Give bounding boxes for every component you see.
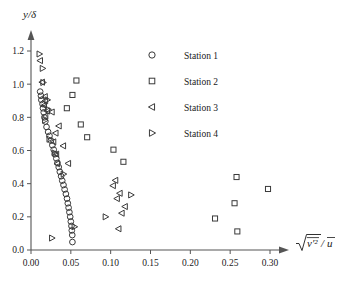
data-point bbox=[85, 135, 90, 140]
y-tick-label: 1.2 bbox=[12, 46, 24, 56]
x-tick-label: 0.00 bbox=[23, 258, 40, 268]
data-point bbox=[37, 51, 43, 57]
data-point bbox=[121, 159, 126, 164]
square-icon bbox=[149, 78, 155, 84]
x-axis-ticks: 0.000.050.100.150.200.250.30 bbox=[23, 250, 279, 268]
data-series-layer bbox=[37, 51, 271, 245]
data-point bbox=[64, 106, 69, 111]
data-point bbox=[72, 224, 78, 230]
data-point bbox=[111, 147, 116, 152]
legend-item-station-1[interactable]: Station 1 bbox=[149, 51, 218, 61]
data-point bbox=[50, 235, 56, 241]
y-tick-label: 1.0 bbox=[12, 80, 24, 90]
legend-item-station-3[interactable]: Station 3 bbox=[148, 103, 218, 113]
y-axis-label-text: y/δ bbox=[22, 8, 37, 20]
y-axis-arrow bbox=[28, 30, 35, 40]
data-point bbox=[65, 160, 71, 166]
y-tick-label: 0.2 bbox=[12, 212, 24, 222]
x-tick-label: 0.25 bbox=[222, 258, 239, 268]
circle-icon bbox=[149, 52, 155, 58]
chart-legend: Station 1Station 2Station 3Station 4 bbox=[148, 51, 218, 139]
legend-item-station-2[interactable]: Station 2 bbox=[149, 77, 218, 87]
data-point bbox=[115, 226, 121, 232]
data-point bbox=[56, 123, 62, 129]
legend-label: Station 3 bbox=[184, 103, 218, 113]
data-point bbox=[235, 229, 240, 234]
data-point bbox=[103, 214, 109, 220]
triangle-right-icon bbox=[149, 130, 155, 137]
legend-label: Station 2 bbox=[184, 77, 218, 87]
x-tick-label: 0.15 bbox=[142, 258, 159, 268]
triangle-left-icon bbox=[148, 104, 154, 111]
data-point bbox=[78, 122, 83, 127]
data-point bbox=[70, 239, 76, 245]
x-tick-label: 0.30 bbox=[262, 258, 279, 268]
data-point bbox=[234, 174, 239, 179]
y-axis-ticks: 0.00.20.40.60.81.01.2 bbox=[12, 46, 31, 255]
x-label-numerator: v′² bbox=[307, 237, 318, 249]
data-point bbox=[119, 210, 125, 216]
data-point bbox=[110, 183, 116, 189]
legend-item-station-4[interactable]: Station 4 bbox=[149, 129, 218, 139]
x-tick-label: 0.10 bbox=[102, 258, 119, 268]
data-point bbox=[37, 58, 43, 64]
x-axis-label: v′² / u bbox=[296, 235, 335, 251]
data-point bbox=[60, 143, 66, 149]
y-tick-label: 0.6 bbox=[12, 146, 24, 156]
series-station-1 bbox=[37, 89, 75, 245]
data-point bbox=[232, 201, 237, 206]
data-point bbox=[122, 204, 128, 210]
x-tick-label: 0.20 bbox=[182, 258, 199, 268]
scatter-plot-figure: y/δ 0.00.20.40.60.81.01.2 0.000.050.100.… bbox=[0, 0, 343, 283]
y-tick-label: 0.8 bbox=[12, 113, 24, 123]
data-point bbox=[265, 186, 270, 191]
data-point bbox=[74, 78, 79, 83]
data-point bbox=[52, 130, 58, 136]
y-tick-label: 0.4 bbox=[12, 179, 24, 189]
data-point bbox=[40, 65, 46, 71]
data-point bbox=[114, 196, 120, 202]
chart-canvas: y/δ 0.00.20.40.60.81.01.2 0.000.050.100.… bbox=[0, 0, 343, 283]
data-point bbox=[212, 216, 217, 221]
x-tick-label: 0.05 bbox=[63, 258, 80, 268]
legend-label: Station 4 bbox=[184, 129, 218, 139]
data-point bbox=[70, 92, 75, 97]
y-axis-label: y/δ bbox=[22, 8, 37, 20]
x-axis-arrow bbox=[279, 247, 289, 254]
series-station-3 bbox=[37, 58, 127, 232]
data-point bbox=[129, 192, 135, 198]
series-station-2 bbox=[64, 78, 270, 234]
y-tick-label: 0.0 bbox=[12, 245, 24, 255]
x-axis bbox=[31, 247, 289, 254]
x-label-denominator: u bbox=[327, 237, 333, 249]
x-label-slash: / bbox=[320, 237, 325, 249]
legend-label: Station 1 bbox=[184, 51, 218, 61]
